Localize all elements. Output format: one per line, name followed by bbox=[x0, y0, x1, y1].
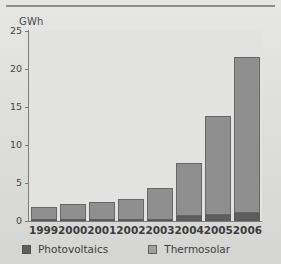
legend-swatch-thermo-icon bbox=[148, 245, 157, 254]
bar-2000[interactable] bbox=[60, 31, 86, 221]
y-axis-tick-label: 10 bbox=[0, 140, 22, 150]
bar-1999[interactable] bbox=[31, 31, 57, 221]
bar-2005[interactable] bbox=[205, 31, 231, 221]
chart-legend: PhotovoltaicsThermosolar bbox=[22, 243, 270, 255]
bar-segment-thermosolar-2003[interactable] bbox=[147, 188, 173, 221]
bar-group bbox=[29, 31, 262, 221]
bar-segment-photovoltaics-1999[interactable] bbox=[31, 219, 57, 221]
bar-segment-thermosolar-2002[interactable] bbox=[118, 199, 144, 221]
y-axis-tick-0 bbox=[25, 221, 29, 222]
bar-segment-photovoltaics-2002[interactable] bbox=[118, 219, 144, 221]
y-axis-tick-label: 5 bbox=[0, 178, 22, 188]
y-axis-tick-label: 15 bbox=[0, 102, 22, 112]
bar-2001[interactable] bbox=[89, 31, 115, 221]
bar-segment-photovoltaics-2005[interactable] bbox=[205, 215, 231, 221]
legend-item-pv[interactable]: Photovoltaics bbox=[22, 243, 108, 255]
x-axis-line bbox=[28, 221, 262, 222]
bar-2002[interactable] bbox=[118, 31, 144, 221]
bar-segment-thermosolar-2004[interactable] bbox=[176, 163, 202, 217]
legend-label: Photovoltaics bbox=[38, 243, 108, 255]
bar-segment-photovoltaics-2000[interactable] bbox=[60, 219, 86, 221]
legend-swatch-pv-icon bbox=[22, 245, 31, 254]
x-axis-label-2006: 2006 bbox=[229, 224, 265, 236]
bar-segment-photovoltaics-2003[interactable] bbox=[147, 219, 173, 221]
legend-label: Thermosolar bbox=[164, 243, 230, 255]
bar-2003[interactable] bbox=[147, 31, 173, 221]
bar-segment-thermosolar-2005[interactable] bbox=[205, 116, 231, 215]
y-axis-tick-label: 25 bbox=[0, 26, 22, 36]
bar-segment-photovoltaics-2006[interactable] bbox=[234, 213, 260, 221]
y-axis-tick-label: 0 bbox=[0, 216, 22, 226]
y-axis-unit-label: GWh bbox=[19, 16, 44, 27]
bar-2004[interactable] bbox=[176, 31, 202, 221]
bar-segment-photovoltaics-2001[interactable] bbox=[89, 219, 115, 221]
legend-item-thermo[interactable]: Thermosolar bbox=[148, 243, 230, 255]
bar-segment-thermosolar-2001[interactable] bbox=[89, 202, 115, 221]
bar-segment-thermosolar-2006[interactable] bbox=[234, 57, 260, 213]
solar-energy-stacked-bar-chart: GWh 0510152025 1999200020012002200320042… bbox=[0, 0, 281, 264]
bar-2006[interactable] bbox=[234, 31, 260, 221]
y-axis-tick-label: 20 bbox=[0, 64, 22, 74]
bar-segment-photovoltaics-2004[interactable] bbox=[176, 216, 202, 221]
